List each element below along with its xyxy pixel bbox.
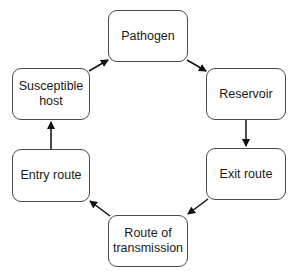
node-label: Reservoir <box>219 87 273 102</box>
node-label: Entry route <box>20 168 81 183</box>
node-entry-route: Entry route <box>12 149 90 202</box>
node-label: Pathogen <box>121 29 175 44</box>
node-pathogen: Pathogen <box>108 10 188 62</box>
node-route-of-transmission: Route of transmission <box>108 215 188 267</box>
node-susceptible-host: Susceptible host <box>12 68 90 120</box>
arrow-exit-to-transmission <box>188 199 208 214</box>
arrow-host-to-pathogen <box>89 60 108 71</box>
node-exit-route: Exit route <box>206 148 286 200</box>
node-label: Exit route <box>220 167 273 182</box>
arrow-pathogen-to-reservoir <box>187 60 206 71</box>
node-label: Susceptible host <box>15 79 87 109</box>
arrow-transmission-to-entry <box>90 201 110 216</box>
node-reservoir: Reservoir <box>206 68 286 120</box>
node-label: Route of transmission <box>111 226 185 256</box>
